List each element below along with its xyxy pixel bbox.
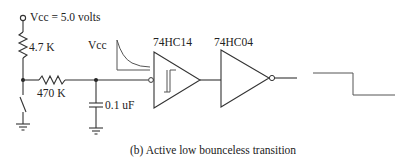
vcc-supply-label: Vcc = 5.0 volts: [30, 11, 101, 23]
switch-icon: [20, 97, 26, 112]
hysteresis-symbol-icon: [164, 70, 176, 92]
output-step-waveform-icon: [313, 73, 395, 95]
ground-icon: [89, 128, 103, 134]
series-resistor-icon: [39, 76, 65, 84]
pullup-resistor-label: 4.7 K: [29, 41, 55, 53]
schmitt-inverter-icon: [154, 52, 200, 108]
vcc-terminal-icon: [20, 15, 25, 20]
input-inversion-bubble-icon: [149, 78, 154, 83]
schmitt-inverter-label: 74HC14: [153, 36, 192, 48]
capacitor-label: 0.1 uF: [105, 99, 134, 111]
inverter-label: 74HC04: [214, 36, 253, 48]
capacitor-icon: [89, 103, 103, 107]
ground-icon: [16, 124, 30, 130]
waveform-vcc-label: Vcc: [88, 39, 107, 51]
rc-decay-waveform-icon: [117, 40, 150, 70]
output-inversion-bubble-icon: [269, 75, 274, 80]
pullup-resistor-icon: [19, 32, 27, 58]
series-resistor-label: 470 K: [37, 87, 66, 99]
figure-caption: (b) Active low bounceless transition: [130, 144, 296, 157]
circuit-diagram: Vcc = 5.0 volts 4.7 K 470 K 0.1 uF Vcc: [0, 0, 408, 162]
inverter-icon: [221, 50, 269, 107]
